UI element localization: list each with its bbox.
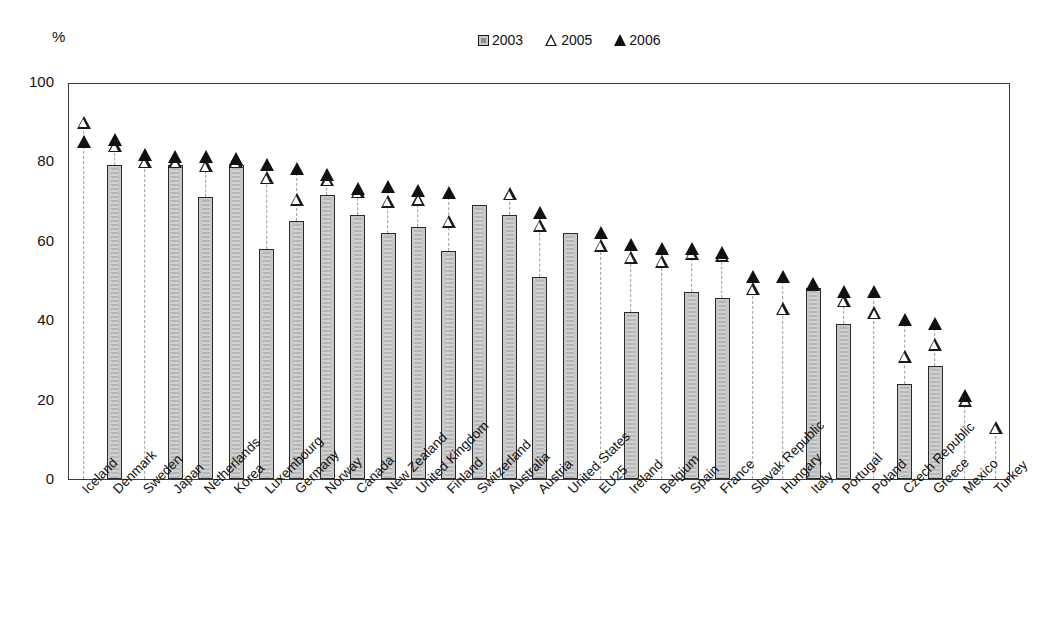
legend-item-2006: 2006 (614, 32, 660, 48)
y-axis-tick-0: 0 (8, 470, 54, 487)
marker-2006 (320, 168, 334, 181)
bar-2003 (411, 227, 426, 479)
marker-stem (752, 281, 753, 480)
plot-inner (69, 84, 1009, 479)
marker-stem (722, 257, 723, 299)
y-axis-tick-40: 40 (8, 311, 54, 328)
chart-column (282, 84, 312, 479)
marker-2006 (290, 162, 304, 175)
chart-column (130, 84, 160, 479)
legend-item-2005: 2005 (545, 32, 592, 48)
marker-2006 (138, 148, 152, 161)
marker-2006 (776, 270, 790, 283)
marker-2005 (655, 255, 669, 268)
chart-column (69, 84, 99, 479)
bar-2003 (198, 197, 213, 479)
bar-2003 (320, 195, 335, 479)
marker-2005 (381, 195, 395, 208)
chart-column (221, 84, 251, 479)
solid-triangle-icon (614, 34, 626, 46)
marker-stem (661, 253, 662, 479)
marker-2006 (168, 150, 182, 163)
bar-2003 (532, 277, 547, 479)
chart-column (373, 84, 403, 479)
marker-2006 (77, 135, 91, 148)
legend-item-2003: 2003 (478, 32, 523, 48)
chart-column (829, 84, 859, 479)
y-axis-tick-20: 20 (8, 391, 54, 408)
marker-2006 (685, 242, 699, 255)
bar-2003 (229, 165, 244, 479)
open-triangle-icon (545, 34, 558, 46)
bar-2003 (624, 312, 639, 479)
chart-column (342, 84, 372, 479)
chart-column (677, 84, 707, 479)
marker-2006 (867, 285, 881, 298)
bar-2003 (502, 215, 517, 479)
marker-2005 (776, 302, 790, 315)
marker-2005 (77, 116, 91, 129)
chart-column (707, 84, 737, 479)
marker-2005 (594, 239, 608, 252)
chart-column (525, 84, 555, 479)
chart-column (981, 84, 1011, 479)
chart-legend: 2003 2005 2006 (478, 32, 660, 48)
bar-2003 (381, 233, 396, 479)
marker-2005 (290, 193, 304, 206)
y-axis-tick-80: 80 (8, 152, 54, 169)
legend-label-2003: 2003 (492, 32, 523, 48)
filled-square-icon (478, 35, 489, 46)
bar-2003 (836, 324, 851, 479)
marker-2005 (503, 187, 517, 200)
chart-column (312, 84, 342, 479)
chart-column (494, 84, 524, 479)
y-axis-tick-60: 60 (8, 232, 54, 249)
marker-2006 (655, 242, 669, 255)
marker-2005 (867, 306, 881, 319)
marker-2006 (381, 180, 395, 193)
marker-2006 (351, 182, 365, 195)
bar-2003 (350, 215, 365, 479)
marker-2006 (533, 206, 547, 219)
chart-column (616, 84, 646, 479)
chart-column (251, 84, 281, 479)
marker-2005 (442, 215, 456, 228)
chart-column (920, 84, 950, 479)
marker-2005 (746, 282, 760, 295)
marker-2006 (715, 246, 729, 259)
marker-2006 (260, 158, 274, 171)
chart-column (99, 84, 129, 479)
marker-2006 (199, 150, 213, 163)
plot-area (68, 83, 1010, 480)
bar-2003 (563, 233, 578, 479)
chart-column (738, 84, 768, 479)
marker-2006 (108, 133, 122, 146)
marker-2006 (594, 226, 608, 239)
chart-column (586, 84, 616, 479)
marker-2006 (411, 184, 425, 197)
chart-column (434, 84, 464, 479)
chart-container: % 2003 2005 2006 020406080100 IcelandDen… (0, 0, 1056, 640)
marker-2005 (989, 421, 1003, 434)
chart-column (191, 84, 221, 479)
marker-2006 (746, 270, 760, 283)
chart-column (403, 84, 433, 479)
chart-column (646, 84, 676, 479)
chart-column (859, 84, 889, 479)
y-axis-tick-100: 100 (8, 73, 54, 90)
marker-stem (83, 126, 84, 479)
chart-column (768, 84, 798, 479)
marker-2005 (624, 251, 638, 264)
marker-2006 (898, 313, 912, 326)
chart-column (889, 84, 919, 479)
marker-stem (600, 237, 601, 479)
marker-2005 (928, 338, 942, 351)
bar-2003 (715, 298, 730, 479)
legend-label-2005: 2005 (561, 32, 592, 48)
bar-2003 (107, 165, 122, 479)
marker-2005 (898, 350, 912, 363)
legend-label-2006: 2006 (629, 32, 660, 48)
marker-2006 (837, 285, 851, 298)
marker-2006 (229, 152, 243, 165)
chart-column (555, 84, 585, 479)
